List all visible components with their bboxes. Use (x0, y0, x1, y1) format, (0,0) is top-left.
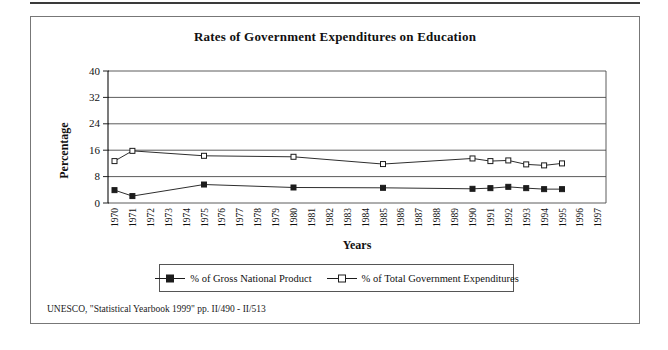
svg-text:1973: 1973 (164, 208, 174, 227)
source-citation: UNESCO, "Statistical Yearbook 1999" pp. … (47, 304, 266, 314)
svg-text:1977: 1977 (235, 208, 245, 227)
legend-item-total-gov: % of Total Government Expenditures (326, 273, 519, 284)
filled-square-marker-icon (154, 274, 186, 283)
svg-text:1986: 1986 (396, 208, 406, 227)
chart-figure: 0816243240197019711972197319741975197619… (30, 16, 640, 324)
svg-text:1992: 1992 (504, 208, 514, 227)
svg-text:1976: 1976 (217, 208, 227, 227)
svg-text:40: 40 (89, 65, 101, 77)
svg-text:1978: 1978 (253, 208, 263, 227)
legend-label-gnp: % of Gross National Product (190, 273, 311, 284)
svg-text:24: 24 (89, 117, 101, 129)
svg-text:1994: 1994 (540, 208, 550, 227)
svg-text:1996: 1996 (575, 208, 585, 227)
svg-text:1984: 1984 (361, 208, 371, 227)
svg-text:1985: 1985 (379, 208, 389, 227)
svg-text:1982: 1982 (325, 208, 335, 227)
chart-legend: % of Gross National Product % of Total G… (159, 264, 514, 292)
svg-text:1975: 1975 (200, 208, 210, 227)
open-square-marker-icon (326, 274, 358, 283)
svg-text:16: 16 (89, 144, 101, 156)
svg-text:1989: 1989 (450, 208, 460, 227)
svg-text:1995: 1995 (558, 208, 568, 227)
svg-text:0: 0 (95, 197, 101, 209)
chart-title: Rates of Government Expenditures on Educ… (31, 29, 639, 45)
svg-text:1971: 1971 (128, 208, 138, 227)
svg-text:1990: 1990 (468, 208, 478, 227)
svg-text:1970: 1970 (110, 208, 120, 227)
svg-text:1997: 1997 (593, 208, 603, 227)
page-top-rule (30, 2, 640, 4)
svg-text:1988: 1988 (432, 208, 442, 227)
svg-text:1980: 1980 (289, 208, 299, 227)
legend-item-gnp: % of Gross National Product (154, 273, 311, 284)
svg-text:1991: 1991 (486, 208, 496, 227)
svg-text:1993: 1993 (522, 208, 532, 227)
svg-text:8: 8 (95, 170, 101, 182)
svg-text:1987: 1987 (414, 208, 424, 227)
x-axis-title: Years (108, 238, 606, 253)
legend-label-total-gov: % of Total Government Expenditures (362, 273, 519, 284)
svg-text:1983: 1983 (343, 208, 353, 227)
y-axis-title: Percentage (57, 111, 72, 191)
svg-text:1979: 1979 (271, 208, 281, 227)
svg-text:32: 32 (89, 91, 100, 103)
svg-text:1972: 1972 (146, 208, 156, 227)
svg-text:1974: 1974 (182, 208, 192, 227)
svg-text:1981: 1981 (307, 208, 317, 227)
